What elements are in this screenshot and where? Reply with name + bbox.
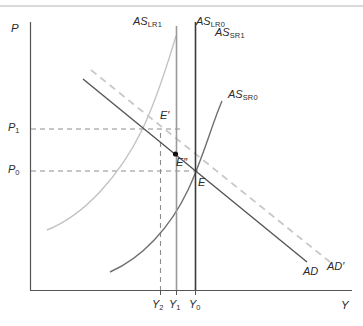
price-tick-p0-sub: 0	[15, 168, 19, 177]
economics-diagram-figure: P Y P1 P0 Y2 Y1 Y0 ASLR1 ASLR0 ASSR1 ASS…	[0, 0, 363, 326]
curve-label-as-lr1-sub: LR1	[148, 20, 162, 29]
output-tick-y2-sub: 2	[159, 303, 163, 312]
output-tick-y1: Y1	[169, 299, 181, 310]
ad-prime-line	[91, 70, 330, 262]
curve-label-as-lr1-base: AS	[133, 15, 148, 27]
curve-label-as-sr1: ASSR1	[215, 27, 245, 38]
price-tick-p1-sub: 1	[15, 126, 19, 135]
output-tick-y2: Y2	[152, 299, 164, 310]
equilibrium-label-e-double-prime: E″	[176, 157, 187, 168]
equilibrium-label-e-prime: E′	[160, 110, 169, 121]
curve-label-as-sr1-sub: SR1	[230, 31, 245, 40]
output-tick-y0: Y0	[189, 299, 201, 310]
curve-label-ad: AD	[303, 266, 318, 277]
as-sr1-curve	[47, 36, 176, 230]
curve-label-as-lr0-base: AS	[196, 15, 211, 27]
axes-group	[30, 22, 352, 291]
price-tick-p1: P1	[8, 122, 20, 133]
curve-label-as-sr1-base: AS	[215, 26, 230, 38]
curve-label-as-lr1: ASLR1	[133, 16, 162, 27]
price-tick-p0: P0	[8, 164, 20, 175]
output-tick-y1-sub: 1	[176, 303, 180, 312]
curve-label-as-sr0-base: AS	[228, 88, 243, 100]
equilibrium-label-e: E	[198, 177, 205, 188]
curve-label-ad-prime: AD′	[327, 261, 344, 272]
curve-label-as-sr0-sub: SR0	[243, 93, 258, 102]
x-axis-label: Y	[341, 300, 349, 312]
output-tick-y0-sub: 0	[196, 303, 200, 312]
curve-label-as-sr0: ASSR0	[228, 89, 258, 100]
y-axis-label: P	[11, 23, 19, 35]
